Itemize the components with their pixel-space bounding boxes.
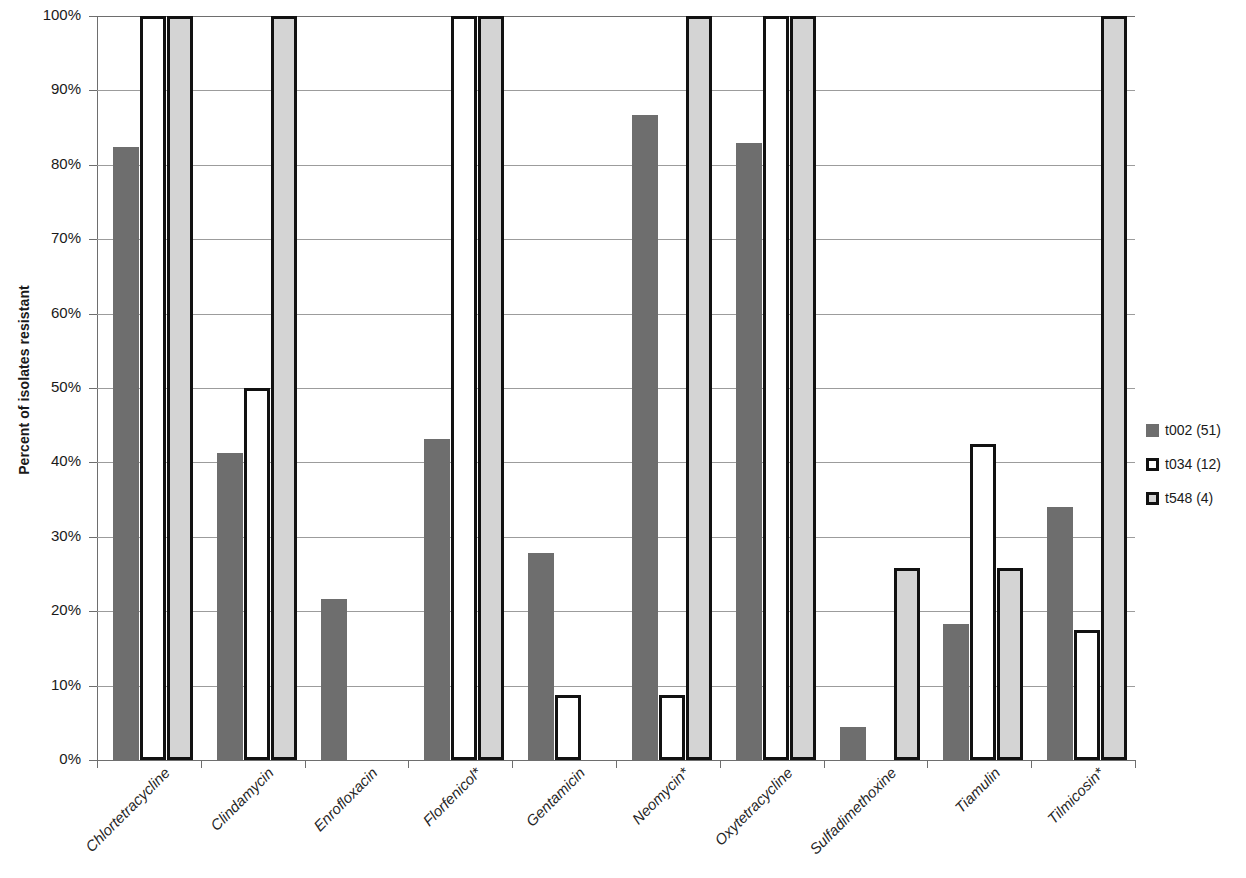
y-axis-tick-label: 100% (0, 6, 81, 23)
bar (736, 143, 762, 760)
x-axis-label: Tiamulin (951, 764, 1003, 816)
bar (1074, 630, 1100, 760)
bar (790, 16, 816, 760)
y-axis-tick-label: 60% (0, 304, 81, 321)
legend-item: t002 (51) (1146, 413, 1246, 447)
legend-swatch-icon (1146, 424, 1159, 437)
bar (686, 16, 712, 760)
bar (167, 16, 193, 760)
gridline (97, 239, 1135, 240)
bar (217, 453, 243, 760)
legend-item: t034 (12) (1146, 447, 1246, 481)
y-axis-tick-mark (89, 239, 97, 240)
bar (997, 568, 1023, 760)
y-axis-tick-label: 70% (0, 229, 81, 246)
y-axis-tick-label: 50% (0, 378, 81, 395)
y-axis-tick-label: 80% (0, 155, 81, 172)
bar (321, 599, 347, 760)
gridline (97, 314, 1135, 315)
x-axis-label: Neomycin* (629, 764, 692, 827)
legend-item-label: t034 (12) (1165, 456, 1221, 472)
y-axis-tick-label: 20% (0, 601, 81, 618)
y-axis-tick-label: 10% (0, 676, 81, 693)
plot-area (97, 16, 1135, 760)
bar (113, 147, 139, 760)
bar (894, 568, 920, 760)
bar (632, 115, 658, 760)
bar (271, 16, 297, 760)
bar (478, 16, 504, 760)
x-axis-label: Tilmicosin* (1044, 764, 1107, 827)
y-axis-tick-mark (89, 537, 97, 538)
chart-legend: t002 (51) t034 (12) t548 (4) (1146, 413, 1246, 515)
y-axis-tick-mark (89, 686, 97, 687)
bar (840, 727, 866, 760)
x-axis-label: Chlortetracycline (82, 764, 173, 855)
bar (140, 16, 166, 760)
bar (528, 553, 554, 760)
y-axis-tick-mark (89, 165, 97, 166)
bar (943, 624, 969, 760)
bar (1047, 507, 1073, 760)
y-axis-tick-mark (89, 90, 97, 91)
x-axis-label: Clindamycin (207, 764, 277, 834)
x-axis-label: Enrofloxacin (310, 764, 380, 834)
legend-swatch-icon (1146, 492, 1159, 505)
gridline (97, 16, 1135, 17)
y-axis-tick-mark (89, 314, 97, 315)
x-axis-labels: ChlortetracyclineClindamycinEnrofloxacin… (0, 766, 1246, 878)
y-axis-tick-mark (89, 462, 97, 463)
bar (659, 695, 685, 760)
x-axis-label: Oxytetracycline (711, 764, 796, 849)
y-axis-tick-mark (89, 760, 97, 761)
bar (763, 16, 789, 760)
gridline (97, 90, 1135, 91)
legend-item-label: t548 (4) (1165, 490, 1213, 506)
x-axis-label: Gentamicin (522, 764, 588, 830)
bar (970, 444, 996, 760)
bar (451, 16, 477, 760)
x-axis-label: Sulfadimethoxine (806, 764, 899, 857)
y-axis-tick-label: 90% (0, 80, 81, 97)
bar (244, 388, 270, 760)
bar (1101, 16, 1127, 760)
y-axis-tick-mark (89, 611, 97, 612)
legend-swatch-icon (1146, 458, 1159, 471)
y-axis-tick-label: 0% (0, 750, 81, 767)
x-axis-label: Florfenicol* (419, 764, 484, 829)
y-axis-tick-label: 40% (0, 452, 81, 469)
bar (555, 695, 581, 760)
bar-chart: Percent of isolates resistant 100%90%80%… (0, 0, 1246, 878)
legend-item-label: t002 (51) (1165, 422, 1221, 438)
gridline (97, 165, 1135, 166)
y-axis-tick-label: 30% (0, 527, 81, 544)
y-axis-tick-mark (89, 16, 97, 17)
bar (424, 439, 450, 760)
y-axis-tick-mark (89, 388, 97, 389)
legend-item: t548 (4) (1146, 481, 1246, 515)
